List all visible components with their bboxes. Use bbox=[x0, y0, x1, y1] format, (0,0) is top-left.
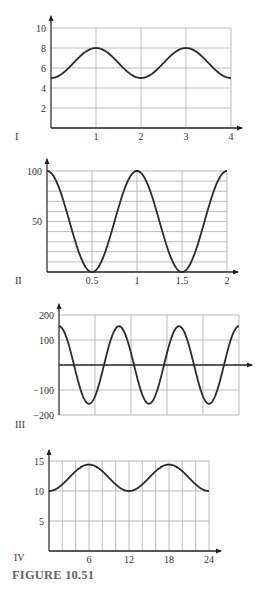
y-tick-label: 50 bbox=[32, 216, 42, 227]
y-tick-label: 100 bbox=[39, 335, 54, 346]
chart-panel-ii: 501000.511.52II bbox=[15, 159, 238, 286]
panel-label: I bbox=[15, 131, 18, 142]
x-tick-label: 24 bbox=[204, 554, 214, 565]
y-tick-label: 10 bbox=[36, 23, 46, 34]
x-tick-label: 18 bbox=[164, 554, 174, 565]
panel-label: III bbox=[15, 419, 25, 430]
y-tick-label: 200 bbox=[39, 310, 54, 321]
y-tick-label: 100 bbox=[27, 166, 42, 177]
figure-10-51: 2468101234I 501000.511.52II 200100−100−2… bbox=[0, 0, 263, 598]
chart-panel-iii: 200100−100−200III bbox=[15, 304, 252, 430]
x-tick-label: 2 bbox=[139, 131, 144, 142]
x-tick-label: 12 bbox=[124, 554, 134, 565]
panel-label: IV bbox=[14, 552, 25, 563]
chart-panel-iv: 510156121824IV bbox=[14, 450, 221, 565]
y-tick-label: 5 bbox=[39, 516, 44, 527]
y-tick-label: −200 bbox=[33, 410, 54, 421]
x-tick-label: 1 bbox=[135, 275, 140, 286]
x-tick-label: 1.5 bbox=[176, 275, 189, 286]
x-tick-label: 6 bbox=[87, 554, 92, 565]
y-tick-label: −100 bbox=[33, 385, 54, 396]
y-tick-label: 8 bbox=[41, 43, 46, 54]
y-tick-label: 10 bbox=[34, 486, 44, 497]
chart-panel-i: 2468101234I bbox=[15, 16, 242, 142]
x-tick-label: 0.5 bbox=[86, 275, 99, 286]
x-tick-label: 3 bbox=[184, 131, 189, 142]
x-tick-label: 1 bbox=[94, 131, 99, 142]
figure-caption: FIGURE 10.51 bbox=[12, 568, 94, 583]
x-tick-label: 2 bbox=[225, 275, 230, 286]
y-tick-label: 6 bbox=[41, 63, 46, 74]
y-tick-label: 2 bbox=[41, 103, 46, 114]
y-tick-label: 4 bbox=[41, 83, 46, 94]
y-tick-label: 15 bbox=[34, 456, 44, 467]
x-tick-label: 4 bbox=[229, 131, 234, 142]
panel-label: II bbox=[15, 275, 22, 286]
